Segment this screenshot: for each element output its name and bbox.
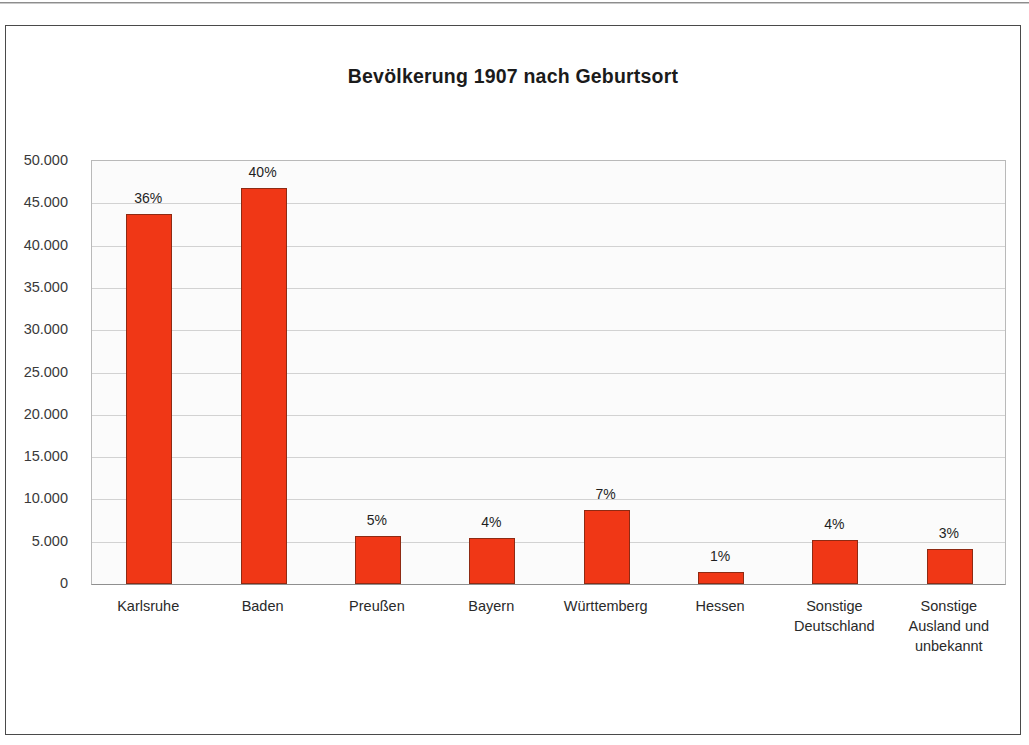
bar-value-label: 4% <box>481 514 501 530</box>
bar <box>126 214 172 585</box>
bar-value-label: 36% <box>134 190 162 206</box>
y-axis-tick-label: 25.000 <box>0 364 68 380</box>
bar <box>241 188 287 584</box>
y-axis-tick-label: 10.000 <box>0 490 68 506</box>
y-axis-tick-label: 5.000 <box>0 533 68 549</box>
gridline <box>92 542 1005 543</box>
gridline <box>92 288 1005 289</box>
y-axis-tick-label: 40.000 <box>0 237 68 253</box>
bar <box>355 536 401 584</box>
y-axis-tick-label: 20.000 <box>0 406 68 422</box>
y-axis-tick-label: 15.000 <box>0 448 68 464</box>
x-axis-tick-label: SonstigeAusland undunbekannt <box>874 596 1024 656</box>
bar-value-label: 3% <box>939 525 959 541</box>
bar-value-label: 4% <box>824 516 844 532</box>
gridline <box>92 499 1005 500</box>
figure-frame: Bevölkerung 1907 nach Geburtsort 50.0004… <box>5 25 1021 735</box>
bar <box>469 538 515 584</box>
x-axis-tick-label-line: Ausland und <box>874 616 1024 636</box>
bar <box>698 572 744 584</box>
gridline <box>92 203 1005 204</box>
y-axis-tick-label: 30.000 <box>0 321 68 337</box>
gridline <box>92 246 1005 247</box>
bar-value-label: 5% <box>367 512 387 528</box>
bar-value-label: 7% <box>596 486 616 502</box>
x-axis-tick-label-line: unbekannt <box>874 636 1024 656</box>
plot-area <box>91 160 1006 585</box>
chart-title: Bevölkerung 1907 nach Geburtsort <box>6 65 1020 88</box>
y-axis-tick-label: 50.000 <box>0 152 68 168</box>
gridline <box>92 330 1005 331</box>
bar-value-label: 1% <box>710 548 730 564</box>
bar-value-label: 40% <box>249 164 277 180</box>
gridline <box>92 415 1005 416</box>
bar <box>927 549 973 584</box>
x-axis-tick-label-line: Sonstige <box>874 596 1024 616</box>
bar <box>812 540 858 584</box>
gridline <box>92 373 1005 374</box>
y-axis-tick-label: 45.000 <box>0 194 68 210</box>
y-axis-tick-label: 0 <box>0 575 68 591</box>
gridline <box>92 457 1005 458</box>
top-page-rule <box>0 2 1029 4</box>
y-axis-tick-label: 35.000 <box>0 279 68 295</box>
bar <box>584 510 630 584</box>
